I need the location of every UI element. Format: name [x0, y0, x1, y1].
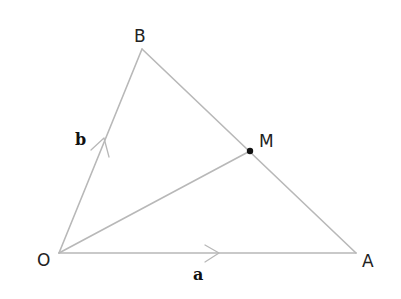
- label-B: B: [134, 26, 146, 46]
- label-O: O: [37, 250, 50, 270]
- point-M: [247, 148, 253, 154]
- label-M: M: [259, 131, 274, 151]
- segment-OB: [59, 49, 142, 253]
- label-vector-b: b: [75, 130, 86, 149]
- label-A: A: [362, 251, 374, 271]
- triangle-diagram: B M O A b a: [0, 0, 401, 299]
- label-vector-a: a: [193, 265, 203, 284]
- segment-OM: [59, 151, 250, 253]
